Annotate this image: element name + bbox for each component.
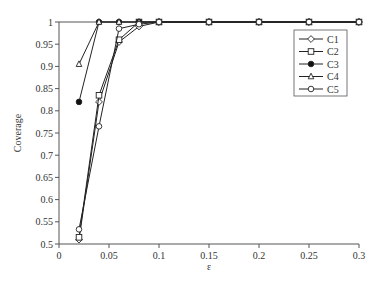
circle-marker-icon [96,124,102,130]
y-tick-label: 0.95 [36,39,54,50]
circle-marker-icon [206,19,212,25]
legend-label: C1 [327,34,339,45]
x-tick-label: 0.3 [353,250,366,261]
y-tick-label: 1 [48,17,53,28]
circle-marker-icon [116,26,122,32]
y-tick-label: 0.85 [36,83,54,94]
circle-marker-icon [306,19,312,25]
y-tick-label: 0.6 [41,194,54,205]
circle-marker-icon [156,19,162,25]
circle-marker-icon [256,19,262,25]
star-marker-icon [76,99,82,105]
diamond-marker-icon [96,99,103,106]
y-tick-label: 0.5 [41,239,54,250]
x-tick-label: 0.05 [100,250,118,261]
square-marker-icon [96,92,102,98]
y-tick-label: 0.9 [41,61,54,72]
x-tick-label: 0.1 [153,250,166,261]
legend-label: C4 [327,71,339,82]
circle-marker-icon [136,21,142,27]
square-marker-icon [308,49,314,55]
legend-label: C3 [327,59,339,70]
x-axis-title: ε [207,261,211,272]
y-tick-label: 0.8 [41,105,54,116]
square-marker-icon [76,235,82,241]
y-tick-label: 0.75 [36,128,54,139]
legend-box [294,30,347,96]
y-tick-label: 0.65 [36,172,54,183]
legend: C1C2C3C4C5 [294,30,347,96]
circle-marker-icon [356,19,362,25]
x-tick-label: 0.25 [300,250,318,261]
x-ticks: 00.050.10.150.20.250.3 [57,244,366,261]
x-tick-label: 0.15 [200,250,218,261]
y-tick-label: 0.7 [41,150,54,161]
circle-marker-icon [308,86,314,92]
triangle-marker-icon [76,61,82,67]
x-tick-label: 0.2 [253,250,266,261]
coverage-line-chart: 0.50.550.60.650.70.750.80.850.90.951 00.… [0,0,378,287]
y-tick-label: 0.55 [36,216,54,227]
y-ticks: 0.50.550.60.650.70.750.80.850.90.951 [36,17,60,250]
legend-label: C2 [327,46,339,57]
y-axis-title: Coverage [12,113,23,152]
star-marker-icon [308,61,314,67]
legend-label: C5 [327,84,339,95]
x-tick-label: 0 [57,250,62,261]
circle-marker-icon [76,227,82,233]
